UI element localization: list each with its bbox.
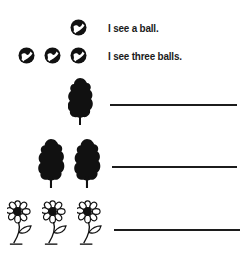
exercise-2-picture [38, 139, 101, 188]
exercise-1-picture [68, 78, 93, 125]
exercise-3-picture [7, 199, 102, 246]
exercise-2-answer-line[interactable] [112, 166, 237, 168]
example-2-picture [18, 47, 87, 64]
tree-icon [68, 78, 93, 125]
tree-icon [38, 139, 65, 188]
example-1-picture [70, 19, 87, 36]
ball-icon [18, 47, 35, 64]
ball-icon [70, 47, 87, 64]
flower-icon [42, 199, 67, 246]
flower-icon [7, 199, 32, 246]
tree-icon [74, 139, 101, 188]
exercise-1-answer-line[interactable] [110, 104, 237, 106]
example-1-sentence: I see a ball. [108, 22, 158, 34]
ball-icon [44, 47, 61, 64]
example-2-sentence: I see three balls. [108, 50, 182, 62]
ball-icon [70, 19, 87, 36]
exercise-3-answer-line[interactable] [114, 229, 240, 231]
flower-icon [77, 199, 102, 246]
